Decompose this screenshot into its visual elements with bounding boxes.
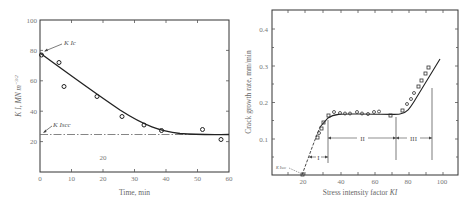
left-xtick-50: 50 xyxy=(194,175,202,183)
right-ytick-0.1: 0.1 xyxy=(259,136,268,144)
left-x-axis-label: Time, min xyxy=(119,188,150,197)
region-boundaries xyxy=(328,88,432,163)
svg-text:K I, MN m−3/2: K I, MN m−3/2 xyxy=(14,75,23,118)
left-x-ticks xyxy=(72,20,198,172)
right-xtick-40: 40 xyxy=(338,178,346,186)
region-ii-arrowhead-left xyxy=(328,137,331,140)
right-chart: 0.4 0.3 0.2 0.1 20 40 60 80 100 Stress i… xyxy=(244,10,458,197)
left-xtick-60: 60 xyxy=(226,175,234,183)
right-xtick-60: 60 xyxy=(372,178,380,186)
right-kiscc-arrow xyxy=(289,168,300,173)
left-kic-label: K Ic xyxy=(63,39,77,47)
right-xtick-80: 80 xyxy=(405,178,413,186)
charts-svg: 100 80 60 40 20 0 10 20 30 40 50 60 Time… xyxy=(0,0,470,206)
region-ii-label: II xyxy=(360,135,365,143)
right-ytick-0.2: 0.2 xyxy=(259,99,268,107)
left-xtick-40: 40 xyxy=(163,175,171,183)
left-ytick-100: 100 xyxy=(27,17,38,25)
right-xtick-100: 100 xyxy=(437,178,448,186)
left-kiscc-arrowhead xyxy=(43,130,47,134)
region-iii-label: III xyxy=(410,135,418,143)
left-chart: 100 80 60 40 20 0 10 20 30 40 50 60 Time… xyxy=(14,17,233,198)
left-y-axis-label: K I, MN m−3/2 xyxy=(14,75,23,118)
region-i-arrowhead-right xyxy=(325,156,328,159)
left-kiscc-label: K Iscc xyxy=(52,121,72,129)
left-ytick-20: 20 xyxy=(30,138,38,146)
figure: 100 80 60 40 20 0 10 20 30 40 50 60 Time… xyxy=(0,0,470,206)
left-xtick-20: 20 xyxy=(100,175,108,183)
region-ii-arrowhead-right xyxy=(393,137,396,140)
right-xtick-20: 20 xyxy=(300,178,308,186)
right-data-points xyxy=(301,66,430,176)
left-ytick-60: 60 xyxy=(30,77,38,85)
left-stray-label: 20 xyxy=(100,154,108,162)
region-iii-arrowhead-right xyxy=(429,137,432,140)
region-i-label: I xyxy=(317,154,320,162)
right-plot-frame xyxy=(272,10,458,175)
region-iii-arrowhead-left xyxy=(396,137,399,140)
right-kiscc-label: K Iscc xyxy=(275,165,286,170)
left-ytick-80: 80 xyxy=(30,47,38,55)
right-ytick-0.3: 0.3 xyxy=(259,63,268,71)
left-xtick-0: 0 xyxy=(38,175,42,183)
left-xtick-10: 10 xyxy=(68,175,76,183)
right-x-axis-label: Stress intensity factor KI xyxy=(323,188,398,197)
right-fit-curve xyxy=(320,59,440,127)
left-kic-arrowhead xyxy=(44,49,48,52)
right-ytick-0.4: 0.4 xyxy=(259,26,268,34)
left-ytick-40: 40 xyxy=(30,108,38,116)
right-fit-dashed xyxy=(302,127,320,175)
right-y-axis-label: Crack growth rate, mm/min xyxy=(244,50,253,134)
left-xtick-30: 30 xyxy=(131,175,139,183)
